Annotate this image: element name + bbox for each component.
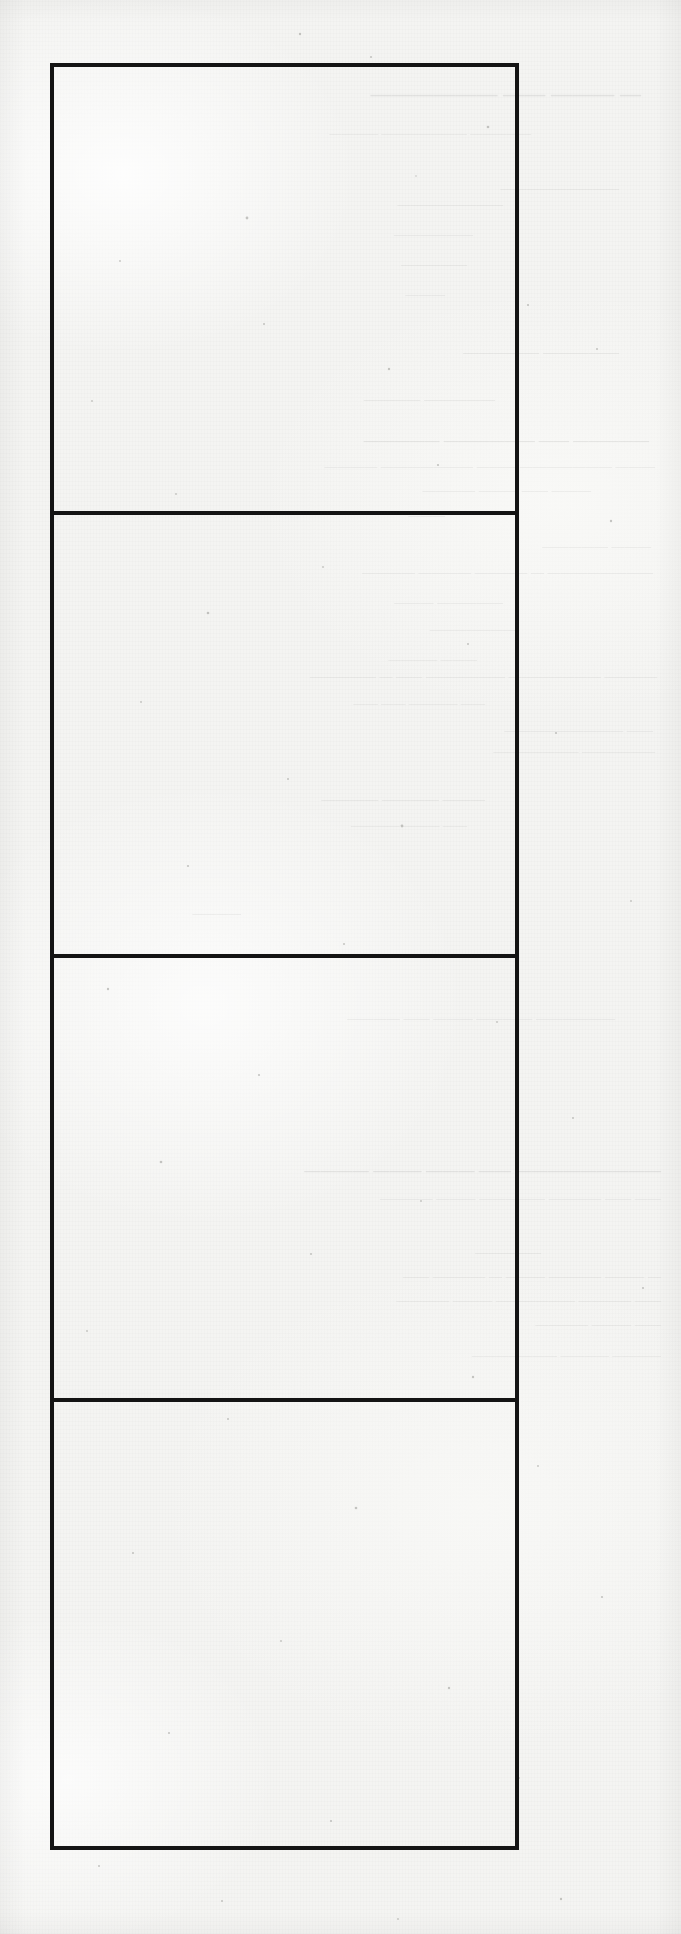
form-cell-4	[54, 1402, 515, 1846]
bleed-through-line: —— —————————	[504, 722, 653, 738]
form-cell-4-content	[54, 1402, 515, 1846]
form-cell-1	[54, 67, 515, 515]
bleed-through-line: ——— —————	[542, 538, 651, 554]
form-cell-3-content	[54, 958, 515, 1398]
form-cell-3	[54, 958, 515, 1402]
form-outer-box	[50, 63, 519, 1850]
form-cell-2-content	[54, 515, 515, 954]
form-cell-2	[54, 515, 515, 958]
scanned-page: — ——— —— ——————————— ——————— ———————————…	[0, 0, 681, 1934]
form-cell-1-content	[54, 67, 515, 511]
bleed-through-line: —— ——— ————	[535, 1316, 661, 1332]
